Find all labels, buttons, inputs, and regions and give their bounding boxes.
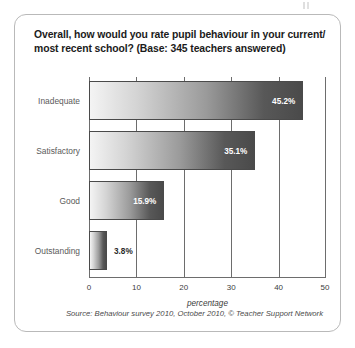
bar-outstanding[interactable] [89,231,107,270]
chart-card: Overall, how would you rate pupil behavi… [14,14,341,332]
bar-row: Outstanding 3.8% [89,231,326,270]
xtick-0: 0 [87,283,91,292]
xtick-30: 30 [227,283,236,292]
x-axis-label: percentage [89,299,326,308]
bar-good[interactable]: 15.9% [89,181,164,220]
category-label: Outstanding [35,246,80,256]
x-axis-line [89,277,326,278]
bar-value-label: 45.2% [272,96,295,105]
source-note: Source: Behaviour survey 2010, October 2… [15,309,323,318]
bar-value-label: 35.1% [224,146,247,155]
bar-row: Inadequate 45.2% [89,81,326,120]
bar-value-label: 15.9% [133,196,156,205]
bar-row: Good 15.9% [89,181,326,220]
chart-title: Overall, how would you rate pupil behavi… [34,28,326,56]
category-label: Satisfactory [36,146,80,156]
xtick-50: 50 [321,283,330,292]
bar-satisfactory[interactable]: 35.1% [89,131,255,170]
xtick-40: 40 [274,283,283,292]
bar-inadequate[interactable]: 45.2% [89,81,303,120]
xtick-10: 10 [132,283,141,292]
category-label: Good [60,196,81,206]
bar-value-label: 3.8% [114,246,133,255]
bar-row: Satisfactory 35.1% [89,131,326,170]
xtick-20: 20 [179,283,188,292]
category-label: Inadequate [38,96,80,106]
scan-artifact [297,2,313,9]
plot-area: Inadequate 45.2% Satisfactory 35.1% Good… [89,77,326,278]
